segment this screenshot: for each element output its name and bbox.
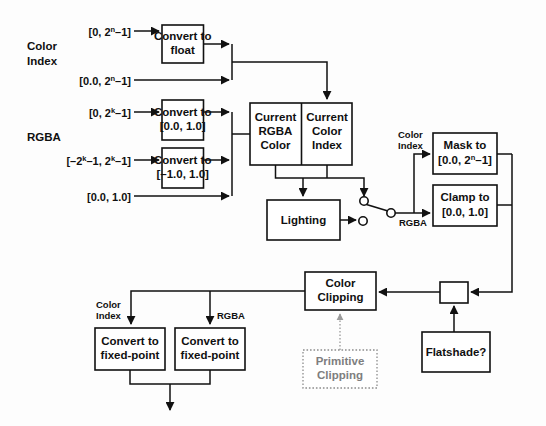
selector-switch[interactable] (359, 197, 395, 225)
box-convert-fixed-point-rgba: Convert to fixed-point (175, 328, 245, 370)
box-clamp-to-line2: [0.0, 1.0] (442, 206, 488, 218)
box-color-clipping-line1: Color (325, 277, 356, 289)
box-current-color-index-line2: Color (312, 125, 343, 137)
path-label-switch-color-index-line1: Color (398, 129, 423, 140)
path-label-switch-rgba: RGBA (399, 217, 427, 228)
box-convert-fixed-point-rgba-line2: fixed-point (181, 349, 240, 361)
wire-fixed-point-merge (130, 370, 210, 384)
box-convert-to-neg1-1-line1: Convert to (154, 154, 212, 166)
group-label-color-index-line2: Index (27, 55, 58, 67)
box-clamp-to-line1: Clamp to (440, 191, 489, 203)
input-label-rgba-signed: [–2k–1, 2k–1] (66, 154, 131, 168)
wire-colorindex-bus-to-current-color-index (232, 62, 327, 99)
box-primitive-clipping-line2: Clipping (317, 369, 363, 381)
input-label-color-index-int: [0, 2n–1] (88, 25, 131, 39)
box-merge-junction (440, 282, 468, 303)
path-label-bottom-color-index: Color Index (96, 299, 122, 321)
box-convert-fixed-point-rgba-line1: Convert to (181, 335, 239, 347)
box-convert-to-0-1-line2: [0.0, 1.0] (160, 120, 206, 132)
box-flatshade: Flatshade? (422, 332, 490, 372)
box-current-color-index-line1: Current (306, 111, 348, 123)
box-convert-fixed-point-index: Convert to fixed-point (95, 328, 165, 370)
box-mask-to-line1: Mask to (444, 139, 487, 151)
path-label-bottom-color-index-line2: Index (96, 310, 122, 321)
box-current-color-index-line3: Index (312, 139, 343, 151)
box-lighting: Lighting (267, 200, 340, 240)
box-convert-to-neg1-1: Convert to [–1.0, 1.0] (154, 148, 212, 188)
box-current-rgba-color-line2: RGBA (259, 125, 293, 137)
switch-contact-lower[interactable] (359, 217, 367, 225)
box-convert-to-float: Convert to float (154, 25, 212, 63)
input-label-color-index-float: [0.0, 2n–1] (79, 74, 131, 88)
box-color-clipping-line2: Clipping (318, 291, 364, 303)
path-label-bottom-color-index-line1: Color (96, 299, 121, 310)
box-current-color-state: Current RGBA Color Current Color Index (250, 103, 352, 165)
path-label-switch-color-index-line2: Index (398, 140, 424, 151)
group-label-rgba: RGBA (27, 131, 61, 143)
box-primitive-clipping: Primitive Clipping (303, 350, 377, 388)
box-convert-to-float-line1: Convert to (154, 30, 212, 42)
wire-current-rgba-to-switch-pole (276, 165, 365, 196)
input-label-rgba-unsigned: [0, 2k–1] (89, 106, 131, 120)
path-label-switch-color-index: Color Index (398, 129, 424, 151)
box-lighting-label: Lighting (281, 214, 326, 226)
path-label-bottom-rgba: RGBA (217, 310, 245, 321)
switch-pole[interactable] (387, 209, 395, 217)
box-convert-to-0-1-line1: Convert to (154, 106, 212, 118)
box-color-clipping: Color Clipping (305, 272, 376, 310)
group-label-color-index-line1: Color (27, 40, 58, 52)
box-convert-fixed-point-index-line2: fixed-point (101, 349, 160, 361)
box-convert-to-float-line2: float (171, 44, 195, 56)
flowchart-canvas: Color Index RGBA [0, 2n–1] [0.0, 2n–1] [… (0, 0, 546, 426)
box-clamp-to: Clamp to [0.0, 1.0] (433, 185, 497, 226)
box-convert-to-0-1: Convert to [0.0, 1.0] (154, 100, 212, 140)
box-flatshade-label: Flatshade? (426, 346, 487, 358)
wire-switch-to-mask (414, 154, 430, 213)
color-pipeline-diagram: Color Index RGBA [0, 2n–1] [0.0, 2n–1] [… (0, 0, 546, 426)
box-current-rgba-color-line1: Current (255, 111, 297, 123)
group-label-color-index: Color Index (27, 40, 58, 67)
box-mask-to-line2: [0.0, 2n–1] (438, 153, 492, 167)
box-current-rgba-color-line3: Color (260, 139, 291, 151)
input-label-rgba-float: [0.0, 1.0] (87, 191, 131, 203)
box-primitive-clipping-line1: Primitive (316, 355, 365, 367)
box-convert-fixed-point-index-line1: Convert to (101, 335, 159, 347)
box-convert-to-neg1-1-line2: [–1.0, 1.0] (156, 168, 209, 180)
box-mask-to: Mask to [0.0, 2n–1] (433, 133, 497, 174)
